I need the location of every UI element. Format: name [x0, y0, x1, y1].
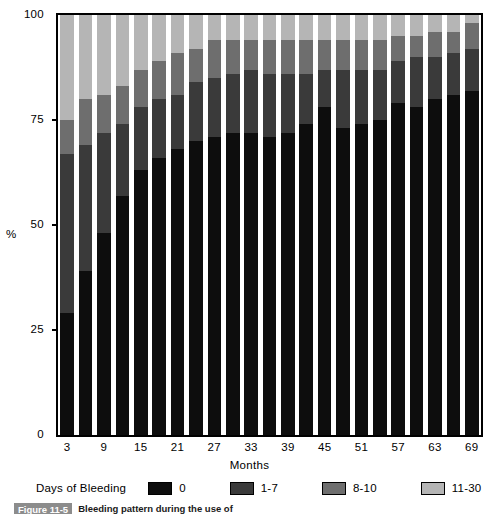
- y-tick-label-50: 50: [0, 219, 44, 230]
- bar-segment-8-10: [60, 120, 74, 154]
- figure-container: % 0255075100 3915212733394551576369 Mont…: [0, 0, 499, 514]
- bar-month-36[interactable]: [263, 15, 277, 435]
- bar-month-42[interactable]: [299, 15, 313, 435]
- legend-item-8-10[interactable]: 8-10: [322, 482, 377, 495]
- bar-segment-11-30: [263, 15, 277, 40]
- bar-segment-11-30: [152, 15, 166, 61]
- bar-segment-0: [465, 91, 479, 435]
- legend-item-0[interactable]: 0: [148, 482, 186, 495]
- bar-segment-0: [244, 133, 258, 435]
- bar-month-24[interactable]: [189, 15, 203, 435]
- x-tick-label-3: 3: [52, 441, 82, 453]
- y-tick-label-0: 0: [0, 429, 44, 440]
- bar-segment-8-10: [152, 61, 166, 99]
- bar-segment-1-7: [79, 145, 93, 271]
- bar-segment-1-7: [410, 57, 424, 107]
- y-tick-label-25: 25: [0, 324, 44, 335]
- bar-segment-8-10: [134, 70, 148, 108]
- bar-segment-11-30: [391, 15, 405, 36]
- bar-month-57[interactable]: [391, 15, 405, 435]
- bar-month-30[interactable]: [226, 15, 240, 435]
- figure-caption-text: Bleeding pattern during the use of: [78, 503, 233, 514]
- bar-segment-1-7: [281, 74, 295, 133]
- bar-segment-11-30: [299, 15, 313, 40]
- bar-segment-0: [355, 124, 369, 435]
- x-tick-label-57: 57: [383, 441, 413, 453]
- bar-month-69[interactable]: [465, 15, 479, 435]
- bar-segment-0: [134, 170, 148, 435]
- bar-segment-11-30: [134, 15, 148, 70]
- bar-segment-0: [79, 271, 93, 435]
- y-tick-mark-75: [52, 119, 58, 121]
- y-tick-mark-25: [52, 329, 58, 331]
- bar-segment-8-10: [410, 36, 424, 57]
- bar-segment-1-7: [171, 95, 185, 150]
- bar-segment-8-10: [281, 40, 295, 74]
- bar-month-39[interactable]: [281, 15, 295, 435]
- x-tick-label-9: 9: [89, 441, 119, 453]
- legend-item-11-30[interactable]: 11-30: [421, 482, 482, 495]
- legend-label: 11-30: [452, 482, 482, 494]
- bar-segment-0: [116, 196, 130, 435]
- figure-caption: Figure 11-5 Bleeding pattern during the …: [14, 503, 484, 514]
- bar-month-51[interactable]: [355, 15, 369, 435]
- x-axis-label: Months: [0, 459, 499, 471]
- x-tick-label-69: 69: [457, 441, 487, 453]
- bar-month-33[interactable]: [244, 15, 258, 435]
- bar-month-6[interactable]: [79, 15, 93, 435]
- bar-month-9[interactable]: [97, 15, 111, 435]
- bar-segment-11-30: [428, 15, 442, 32]
- bar-segment-0: [226, 133, 240, 435]
- bar-segment-8-10: [447, 32, 461, 53]
- bar-segment-8-10: [299, 40, 313, 74]
- bar-segment-8-10: [189, 49, 203, 83]
- y-tick-label-100: 100: [0, 9, 44, 20]
- bar-segment-8-10: [226, 40, 240, 74]
- bar-segment-11-30: [171, 15, 185, 53]
- bar-segment-8-10: [263, 40, 277, 74]
- bar-segment-0: [391, 103, 405, 435]
- x-tick-label-27: 27: [199, 441, 229, 453]
- bar-segment-1-7: [152, 99, 166, 158]
- bar-segment-11-30: [281, 15, 295, 40]
- bar-segment-1-7: [428, 57, 442, 99]
- bar-segment-1-7: [134, 107, 148, 170]
- bar-segment-0: [281, 133, 295, 435]
- bar-segment-11-30: [189, 15, 203, 49]
- bar-segment-0: [299, 124, 313, 435]
- bar-month-48[interactable]: [336, 15, 350, 435]
- bar-segment-0: [428, 99, 442, 435]
- bar-month-45[interactable]: [318, 15, 332, 435]
- bar-month-3[interactable]: [60, 15, 74, 435]
- bar-segment-1-7: [97, 133, 111, 234]
- bar-segment-1-7: [189, 82, 203, 141]
- bar-segment-0: [447, 95, 461, 435]
- bar-month-12[interactable]: [116, 15, 130, 435]
- bar-segment-0: [189, 141, 203, 435]
- bar-segment-8-10: [428, 32, 442, 57]
- bar-segment-1-7: [373, 70, 387, 120]
- bar-month-60[interactable]: [410, 15, 424, 435]
- legend-swatch-icon: [421, 482, 445, 495]
- bar-month-21[interactable]: [171, 15, 185, 435]
- bar-segment-0: [410, 107, 424, 435]
- bar-month-27[interactable]: [208, 15, 222, 435]
- bar-month-66[interactable]: [447, 15, 461, 435]
- bar-segment-11-30: [336, 15, 350, 40]
- bar-segment-1-7: [244, 70, 258, 133]
- legend-item-1-7[interactable]: 1-7: [230, 482, 278, 495]
- legend-swatch-icon: [322, 482, 346, 495]
- bar-segment-11-30: [244, 15, 258, 40]
- bar-month-18[interactable]: [152, 15, 166, 435]
- legend-swatch-icon: [230, 482, 254, 495]
- bar-month-54[interactable]: [373, 15, 387, 435]
- bar-segment-1-7: [116, 124, 130, 195]
- legend-label: 0: [179, 482, 186, 494]
- legend-label: 8-10: [353, 482, 377, 494]
- x-tick-label-39: 39: [273, 441, 303, 453]
- bar-segment-8-10: [244, 40, 258, 69]
- bar-segment-1-7: [336, 70, 350, 129]
- bar-month-15[interactable]: [134, 15, 148, 435]
- bar-segment-11-30: [355, 15, 369, 40]
- bar-month-63[interactable]: [428, 15, 442, 435]
